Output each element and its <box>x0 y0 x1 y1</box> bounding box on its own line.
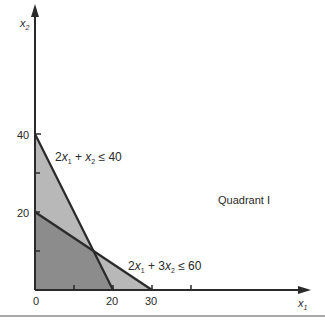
constraint2-label: 2x1 + 3x2 ≤ 60 <box>128 259 202 274</box>
tick-label-y40: 40 <box>17 129 29 141</box>
tick-label-x30: 30 <box>145 295 157 307</box>
y-axis-label: x2 <box>19 17 30 31</box>
linear-programming-diagram: x2 x1 40 20 0 20 30 2x1 + x2 ≤ 40 2x1 + … <box>0 0 325 323</box>
tick-label-y20: 20 <box>17 207 29 219</box>
tick-label-x20: 20 <box>106 295 118 307</box>
constraint1-label: 2x1 + x2 ≤ 40 <box>55 150 122 165</box>
x-axis-arrow-icon <box>298 286 311 294</box>
x-axis-label: x1 <box>297 297 308 311</box>
quadrant-label: Quadrant I <box>218 194 270 206</box>
tick-label-origin: 0 <box>33 295 39 307</box>
y-axis-arrow-icon <box>31 4 39 17</box>
